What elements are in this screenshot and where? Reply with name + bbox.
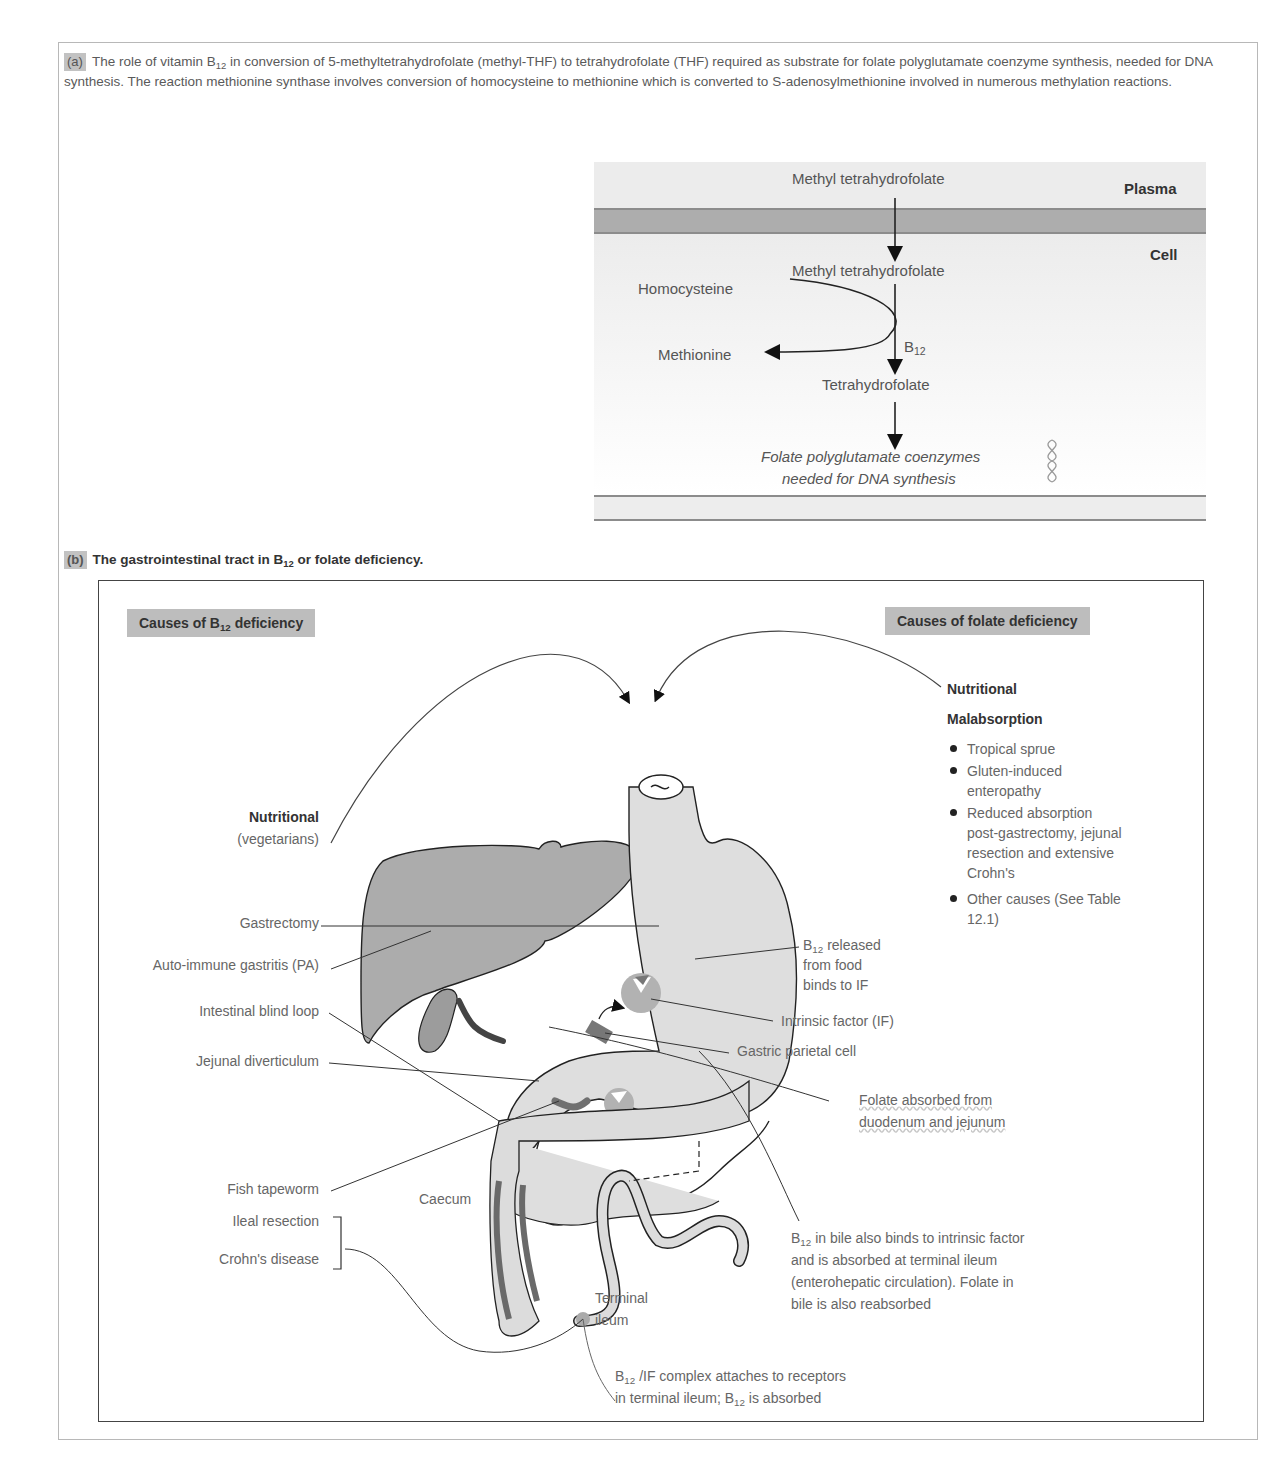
autoimmune-gastritis-label: Auto-immune gastritis (PA) — [153, 955, 319, 975]
folate-coenzymes-label: Folate polyglutamate coenzymes — [761, 448, 980, 465]
homocysteine-label: Homocysteine — [638, 280, 733, 297]
receptor-absorption-note: B12 /IF complex attaches to receptors in… — [615, 1365, 846, 1409]
cell-label: Cell — [1150, 246, 1178, 263]
list-item: Tropical sprue — [947, 739, 1127, 759]
gastrectomy-label: Gastrectomy — [240, 913, 319, 933]
blind-loop-label: Intestinal blind loop — [199, 1001, 319, 1021]
dna-helix-icon — [1048, 440, 1056, 482]
crohns-disease-label: Crohn's disease — [219, 1249, 319, 1269]
fish-tapeworm-label: Fish tapeworm — [227, 1179, 319, 1199]
gi-tract-diagram: Causes of B12 deficiency Causes of folat… — [98, 580, 1204, 1422]
folate-absorbed-label: Folate absorbed from duodenum and jejunu… — [859, 1089, 1005, 1133]
panel-a-caption: (a)The role of vitamin B12 in conversion… — [64, 52, 1244, 92]
panel-a-tag: (a) — [64, 53, 86, 71]
caecum-label: Caecum — [419, 1189, 471, 1209]
ileal-resection-label: Ileal resection — [233, 1211, 319, 1231]
folate-pathway-diagram: Methyl tetrahydrofolate Plasma Cell Meth… — [594, 162, 1206, 524]
list-item: Reduced absorption post-gastrectomy, jej… — [947, 803, 1127, 883]
malabsorption-label: Malabsorption — [947, 709, 1043, 729]
b12-nutritional-label: Nutritional — [249, 807, 319, 827]
b12-cofactor-label: B12 — [904, 338, 926, 355]
gallbladder — [419, 989, 457, 1052]
bile-circulation-note: B12 in bile also binds to intrinsic fact… — [791, 1227, 1024, 1315]
jejunal-diverticulum-label: Jejunal diverticulum — [196, 1051, 319, 1071]
caption-a-sub: 12 — [216, 60, 227, 71]
dna-synthesis-label: needed for DNA synthesis — [782, 470, 956, 487]
parietal-cell-label: Gastric parietal cell — [737, 1041, 856, 1061]
intrinsic-factor-label: Intrinsic factor (IF) — [781, 1011, 894, 1031]
b12-released-label: B12 released from food binds to IF — [803, 935, 881, 995]
plasma-methyl-thf-label: Methyl tetrahydrofolate — [792, 170, 945, 187]
malabsorption-causes-list: Tropical sprue Gluten-induced enteropath… — [947, 739, 1127, 931]
folate-nutritional-label: Nutritional — [947, 679, 1017, 699]
vegetarians-label: (vegetarians) — [237, 829, 319, 849]
panel-b-caption: (b)The gastrointestinal tract in B12 or … — [64, 550, 423, 570]
cell-methyl-thf-label: Methyl tetrahydrofolate — [792, 262, 945, 279]
list-item: Gluten-induced enteropathy — [947, 761, 1127, 801]
folate-causes-heading: Causes of folate deficiency — [885, 607, 1090, 635]
plasma-label: Plasma — [1124, 180, 1177, 197]
b12-causes-heading: Causes of B12 deficiency — [127, 609, 315, 637]
caption-a-text-2: in conversion of 5-methyltetrahydrofolat… — [64, 54, 1212, 89]
caption-a-text-1: The role of vitamin B — [92, 54, 216, 69]
list-item: Other causes (See Table 12.1) — [947, 889, 1127, 929]
terminal-ileum-label: Terminal ileum — [595, 1287, 648, 1331]
tetrahydrofolate-label: Tetrahydrofolate — [822, 376, 930, 393]
panel-b-tag: (b) — [64, 551, 87, 569]
methionine-label: Methionine — [658, 346, 731, 363]
